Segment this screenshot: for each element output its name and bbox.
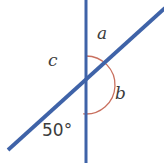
geometry-figure: a b c 50° xyxy=(0,0,164,163)
angle-label-a: a xyxy=(97,25,107,42)
angle-arc-icon xyxy=(84,56,115,114)
lines-group xyxy=(8,0,164,163)
angle-label-c: c xyxy=(48,52,58,69)
geometry-canvas xyxy=(0,0,164,163)
angle-label-b: b xyxy=(115,85,126,102)
angle-arc-group xyxy=(84,56,115,114)
angle-measure-label: 50° xyxy=(42,122,72,139)
